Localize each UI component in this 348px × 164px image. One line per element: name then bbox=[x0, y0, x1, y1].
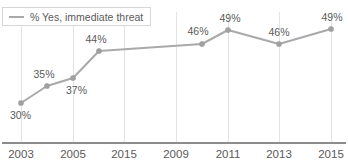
data-point-marker[interactable] bbox=[96, 48, 101, 53]
data-point-marker[interactable] bbox=[70, 75, 75, 80]
data-point-label: 30% bbox=[10, 109, 31, 121]
x-tick-label-6: 2015 bbox=[318, 148, 344, 160]
x-tick-label-4: 2011 bbox=[216, 148, 241, 160]
data-point-marker[interactable] bbox=[199, 41, 204, 46]
x-tick-label-5: 2013 bbox=[266, 148, 292, 160]
data-point-label: 35% bbox=[33, 68, 54, 80]
line-chart: 30%35%37%44%46%49%46%49% 200320052015200… bbox=[0, 0, 348, 164]
x-tick-label-2: 2015 bbox=[111, 148, 137, 160]
data-point-label: 49% bbox=[321, 11, 342, 23]
data-point-marker[interactable] bbox=[225, 27, 230, 32]
data-point-marker[interactable] bbox=[18, 100, 23, 105]
x-tick-label-1: 2005 bbox=[60, 148, 86, 160]
data-point-marker[interactable] bbox=[328, 26, 333, 31]
data-point-label: 46% bbox=[187, 25, 208, 37]
data-point-label: 37% bbox=[66, 84, 87, 96]
data-point-label: 44% bbox=[85, 33, 106, 45]
data-point-label: 49% bbox=[219, 12, 240, 24]
data-point-marker[interactable] bbox=[276, 41, 281, 46]
x-axis-tick-labels: 2003200520152009201120132015 bbox=[8, 148, 344, 160]
chart-legend[interactable]: % Yes, immediate threat bbox=[2, 7, 151, 26]
data-point-marker[interactable] bbox=[44, 83, 49, 88]
x-tick-label-0: 2003 bbox=[8, 148, 34, 160]
data-point-label: 46% bbox=[268, 26, 289, 38]
legend-line-swatch bbox=[9, 16, 24, 18]
x-tick-label-3: 2009 bbox=[163, 148, 189, 160]
legend-item-label: % Yes, immediate threat bbox=[30, 11, 143, 23]
